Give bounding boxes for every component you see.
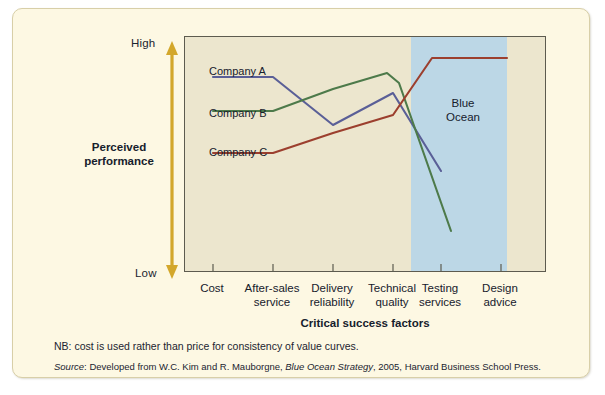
x-tick-label-after-sales-line2: service bbox=[254, 296, 290, 308]
series-label-company-b: Company B bbox=[209, 107, 266, 119]
series-label-company-c: Company C bbox=[209, 146, 267, 158]
figure-note: NB: cost is used rather than price for c… bbox=[54, 340, 359, 352]
blue-ocean-annotation-line2: Ocean bbox=[446, 111, 480, 123]
double-headed-vertical-arrow-icon bbox=[165, 41, 179, 279]
x-tick-label-design-line2: advice bbox=[483, 296, 516, 308]
y-axis-max-label: High bbox=[131, 37, 155, 49]
figure-source: Source: Developed from W.C. Kim and R. M… bbox=[54, 361, 541, 372]
x-tick-label-delivery-line1: Delivery bbox=[311, 282, 353, 294]
blue-ocean-annotation: Blue Ocean bbox=[432, 96, 494, 124]
x-tick-label-testing-line2: services bbox=[419, 296, 461, 308]
y-axis-title-line1: Perceived bbox=[92, 141, 146, 153]
chart-stage: High Low Perceived performance bbox=[13, 9, 591, 379]
x-tick-label-testing-line1: Testing bbox=[422, 282, 458, 294]
y-axis-title-line2: performance bbox=[84, 155, 154, 167]
y-axis-min-label: Low bbox=[135, 267, 157, 279]
source-book-title: Blue Ocean Strategy bbox=[285, 361, 373, 372]
x-tick-label-design-line1: Design bbox=[482, 282, 518, 294]
source-text-mid: : Developed from W.C. Kim and R. Mauborg… bbox=[84, 361, 285, 372]
x-axis-ticks bbox=[213, 264, 501, 271]
x-axis-title: Critical success factors bbox=[184, 317, 546, 329]
y-axis-title: Perceived performance bbox=[69, 140, 169, 168]
figure-card: High Low Perceived performance bbox=[12, 8, 590, 378]
series-label-company-a: Company A bbox=[209, 65, 266, 77]
source-text-suffix: , 2005, Harvard Business School Press. bbox=[373, 361, 541, 372]
x-tick-label-cost-line1: Cost bbox=[200, 282, 224, 294]
x-axis-tick-labels: Cost After-sales service Delivery reliab… bbox=[184, 281, 546, 315]
x-tick-label-design-advice: Design advice bbox=[463, 281, 537, 309]
source-label: Source bbox=[54, 361, 84, 372]
blue-ocean-annotation-line1: Blue bbox=[451, 97, 474, 109]
x-tick-label-delivery-line2: reliability bbox=[310, 296, 355, 308]
x-tick-label-after-sales-line1: After-sales bbox=[245, 282, 300, 294]
